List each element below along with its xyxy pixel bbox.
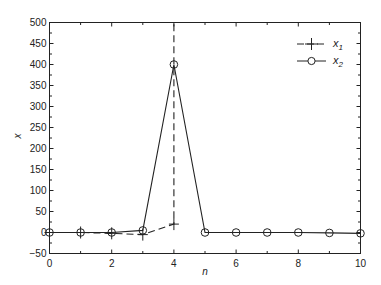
- y-tick-label: 500: [30, 17, 47, 28]
- y-tick-label: 150: [30, 164, 47, 175]
- y-tick-label: 300: [30, 101, 47, 112]
- y-tick-label: −50: [30, 248, 47, 259]
- y-tick-label: 50: [35, 206, 47, 217]
- y-tick-label: 350: [30, 80, 47, 91]
- series-x2-line: [50, 65, 361, 234]
- x-tick-label: 10: [355, 258, 367, 269]
- x-tick-label: 6: [233, 258, 239, 269]
- x-tick-label: 4: [171, 258, 177, 269]
- x-axis: 0246810: [47, 23, 367, 269]
- plot-frame: [50, 23, 361, 254]
- y-axis-label: x: [12, 133, 23, 140]
- series-x1-line: [50, 23, 174, 235]
- y-tick-label: 450: [30, 38, 47, 49]
- x-tick-label: 2: [109, 258, 115, 269]
- legend: x1 x2: [297, 37, 344, 69]
- legend-x1-label: x1: [332, 37, 343, 52]
- x-axis-label: n: [202, 266, 208, 277]
- y-axis: −50050100150200250300350400450500: [30, 17, 361, 259]
- line-chart: −50050100150200250300350400450500 024681…: [0, 0, 381, 285]
- x-tick-label: 8: [296, 258, 302, 269]
- y-tick-label: 100: [30, 185, 47, 196]
- legend-x2-label: x2: [332, 54, 344, 69]
- y-tick-label: 400: [30, 59, 47, 70]
- y-tick-label: 250: [30, 122, 47, 133]
- y-tick-label: 200: [30, 143, 47, 154]
- x-tick-label: 0: [47, 258, 53, 269]
- series-x2-markers: [46, 61, 365, 237]
- circle-marker-icon: [308, 57, 315, 64]
